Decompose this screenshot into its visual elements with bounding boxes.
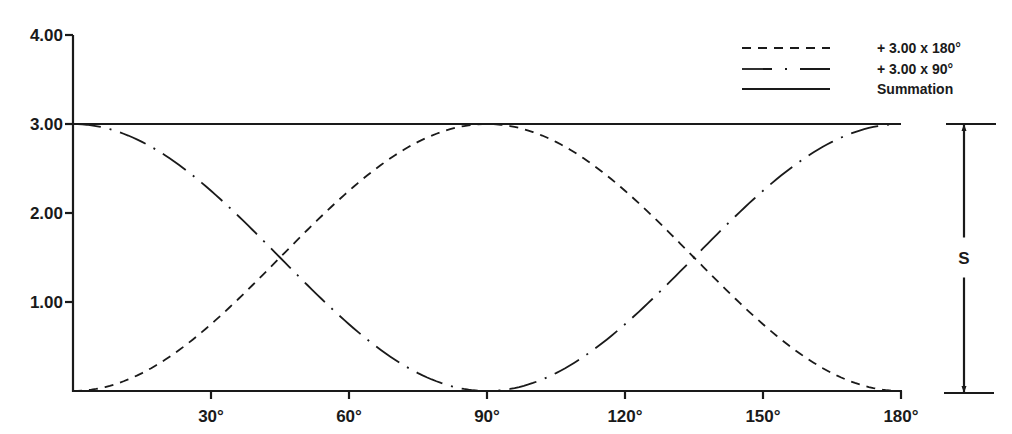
x-tick-label: 150° (745, 407, 780, 426)
x-tick-label: 180° (883, 407, 918, 426)
legend-label: + 3.00 x 90° (877, 61, 953, 77)
y-tick-label: 4.00 (30, 26, 63, 45)
legend-label: + 3.00 x 180° (877, 40, 961, 56)
series-group (73, 124, 901, 391)
chart: 1.002.003.004.00 30°60°90°120°150°180° +… (0, 0, 1012, 434)
x-tick-label: 90° (474, 407, 500, 426)
s-dimension-bracket: S (944, 124, 996, 393)
y-tick-label: 2.00 (30, 204, 63, 223)
y-ticks: 1.002.003.004.00 (30, 26, 73, 312)
x-ticks: 30°60°90°120°150°180° (198, 391, 919, 426)
x-tick-label: 30° (198, 407, 224, 426)
s-annotation-label: S (958, 249, 969, 268)
x-tick-label: 60° (336, 407, 362, 426)
legend-label: Summation (877, 81, 953, 97)
y-tick-label: 3.00 (30, 115, 63, 134)
legend: + 3.00 x 180°+ 3.00 x 90°Summation (742, 40, 961, 97)
series-line-dash-dot (73, 124, 901, 391)
series-line-dashed (73, 124, 901, 391)
x-tick-label: 120° (607, 407, 642, 426)
y-tick-label: 1.00 (30, 293, 63, 312)
